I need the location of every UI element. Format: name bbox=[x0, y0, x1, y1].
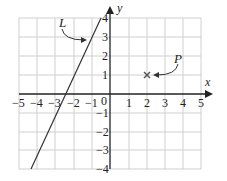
line-label: L bbox=[59, 15, 66, 31]
x-tick: −2 bbox=[67, 96, 80, 111]
x-tick: 5 bbox=[198, 96, 204, 111]
y-tick: −2 bbox=[96, 125, 109, 140]
x-tick: 1 bbox=[126, 96, 132, 111]
point-label: P bbox=[174, 51, 182, 67]
y-tick: 4 bbox=[102, 11, 108, 26]
y-axis-label: y bbox=[117, 1, 122, 16]
y-tick: −3 bbox=[96, 143, 109, 158]
x-axis-label: x bbox=[205, 75, 210, 90]
y-tick: 1 bbox=[102, 68, 108, 83]
x-tick: 3 bbox=[162, 96, 168, 111]
y-tick: −1 bbox=[96, 106, 109, 121]
y-tick: 2 bbox=[102, 49, 108, 64]
x-tick: 2 bbox=[144, 96, 150, 111]
x-tick: −4 bbox=[30, 96, 43, 111]
x-tick: −5 bbox=[12, 96, 25, 111]
x-tick: −3 bbox=[48, 96, 61, 111]
y-tick: −4 bbox=[96, 162, 109, 177]
x-tick: 4 bbox=[180, 96, 186, 111]
y-tick: 3 bbox=[102, 30, 108, 45]
